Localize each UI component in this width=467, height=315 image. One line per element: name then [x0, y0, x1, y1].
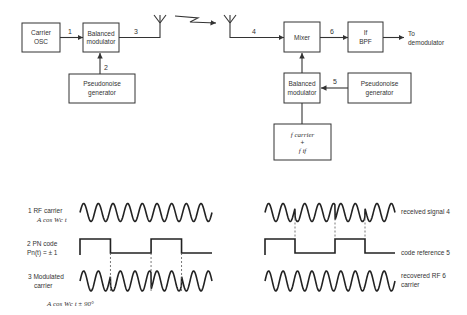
- if-bpf-label: If: [364, 29, 368, 36]
- recovered-carrier-label-2: carrier: [401, 281, 420, 288]
- code-reference-wave: [265, 239, 395, 255]
- tx-balmod-label-2: modulator: [87, 38, 117, 45]
- modulated-label: 3 Modulated: [28, 273, 64, 280]
- modulated-formula: A cos Wc t ± 90°: [46, 300, 94, 308]
- freq-source-label-3: f if: [299, 147, 308, 155]
- tx-balmod-label: Balanced: [87, 30, 114, 37]
- if-bpf-block: If BPF: [348, 22, 383, 52]
- freq-source-label: f carrier: [291, 131, 315, 139]
- received-signal-label: received signal 4: [401, 208, 450, 216]
- rx-pn-label: Pseudonoise: [361, 80, 399, 87]
- mixer-label: Mixer: [294, 34, 311, 41]
- waveforms: [80, 204, 395, 292]
- rx-pn-generator-block: Pseudonoise generator: [348, 73, 411, 103]
- radio-link-zigzag-icon: [175, 16, 216, 23]
- signal-5-label: 5: [333, 78, 337, 85]
- signal-4-label: 4: [252, 28, 256, 35]
- signal-3-line: [119, 23, 160, 38]
- freq-source-plus: +: [301, 139, 305, 146]
- output-label-2: demodulator: [408, 39, 445, 46]
- if-bpf-label-2: BPF: [359, 38, 372, 45]
- signal-1-label: 1: [68, 28, 72, 35]
- rf-carrier-label: 1 RF carrier: [28, 207, 63, 214]
- code-reference-label: code reference 5: [401, 249, 450, 256]
- modulated-label-2: carrier: [34, 282, 53, 289]
- tx-pn-label-2: generator: [88, 89, 117, 97]
- rx-balmod-label-2: modulator: [288, 89, 318, 96]
- freq-source-block: f carrier + f if: [274, 124, 331, 160]
- tx-antenna-icon: [154, 15, 166, 23]
- carrier-osc-label-2: OSC: [34, 38, 48, 45]
- signal-2-label: 2: [104, 64, 108, 71]
- signal-4-arrow: [230, 23, 284, 38]
- tx-pn-generator-block: Pseudonoise generator: [69, 74, 135, 103]
- rx-antenna-icon: [224, 15, 236, 23]
- mixer-block: Mixer: [284, 22, 320, 52]
- rx-balanced-modulator-block: Balanced modulator: [284, 73, 320, 103]
- tx-balanced-modulator-block: Balanced modulator: [83, 23, 119, 52]
- output-label: To: [408, 30, 415, 37]
- signal-6-label: 6: [330, 28, 334, 35]
- carrier-osc-label: Carrier: [31, 29, 52, 36]
- modulated-carrier-wave: [80, 271, 212, 291]
- received-signal-wave: [265, 204, 395, 222]
- rf-carrier-wave: [80, 204, 212, 222]
- pn-code-wave: [80, 239, 212, 255]
- rf-carrier-formula: A cos Wc t: [36, 216, 68, 224]
- recovered-carrier-wave: [265, 271, 395, 291]
- pn-code-formula: Pn(t) = ± 1: [27, 249, 58, 257]
- tx-pn-label: Pseudonoise: [83, 80, 121, 87]
- signal-3-label: 3: [134, 28, 138, 35]
- rx-pn-label-2: generator: [366, 89, 395, 97]
- rx-balmod-label: Balanced: [288, 80, 315, 87]
- pn-code-label: 2 PN code: [27, 240, 58, 247]
- spread-spectrum-diagram: Carrier OSC 1 Balanced modulator 2 Pseud…: [0, 0, 467, 315]
- carrier-osc-block: Carrier OSC: [22, 23, 60, 52]
- recovered-carrier-label: recovered RF 6: [401, 272, 446, 279]
